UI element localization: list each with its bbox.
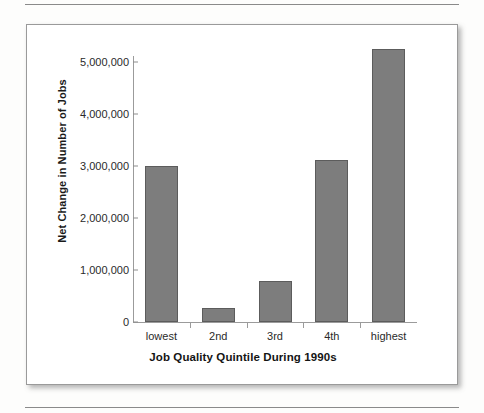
bar-highest	[372, 49, 405, 322]
page-rule-bottom	[25, 407, 459, 408]
x-axis-tick-mark	[247, 323, 248, 328]
y-axis-tick-mark	[133, 270, 138, 271]
y-axis-tick-label: 2,000,000	[51, 212, 129, 224]
y-axis-tick-mark	[133, 62, 138, 63]
x-axis-tick-label: 3rd	[267, 330, 283, 342]
bar-2nd	[202, 308, 235, 322]
y-axis-tick-mark	[133, 322, 138, 323]
y-axis-tick-mark	[133, 166, 138, 167]
x-axis-tick-mark	[303, 323, 304, 328]
bar-3rd	[259, 281, 292, 322]
x-axis-title: Job Quality Quintile During 1990s	[27, 351, 459, 363]
y-axis-tick-mark	[133, 218, 138, 219]
x-axis-tick-label: lowest	[146, 330, 177, 342]
plot-area: Net Change in Number of Jobs 01,000,0002…	[27, 25, 459, 386]
page-rule-top	[25, 4, 459, 5]
chart-figure-box: Net Change in Number of Jobs 01,000,0002…	[26, 24, 458, 385]
bar-lowest	[145, 166, 178, 322]
x-axis-tick-mark	[190, 323, 191, 328]
x-axis-tick-label: 2nd	[209, 330, 227, 342]
x-axis-tick-label: 4th	[324, 330, 339, 342]
figure-page: Net Change in Number of Jobs 01,000,0002…	[0, 0, 484, 413]
x-axis-line	[133, 322, 417, 323]
y-axis-tick-label: 1,000,000	[51, 264, 129, 276]
y-axis-line	[133, 56, 134, 323]
y-axis-tick-label: 5,000,000	[51, 56, 129, 68]
x-axis-tick-label: highest	[371, 330, 406, 342]
y-axis-tick-label: 4,000,000	[51, 108, 129, 120]
x-axis-tick-mark	[360, 323, 361, 328]
y-axis-tick-label: 3,000,000	[51, 160, 129, 172]
bar-4th	[315, 160, 348, 322]
y-axis-tick-label: 0	[51, 316, 129, 328]
y-axis-tick-mark	[133, 114, 138, 115]
